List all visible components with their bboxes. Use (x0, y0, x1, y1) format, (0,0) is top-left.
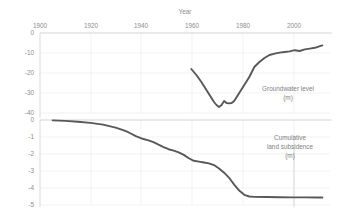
groundwater-label-line1: Groundwater level (262, 85, 314, 92)
top-panel-gridlines (40, 33, 330, 113)
bottom-panel-gridlines (40, 120, 330, 205)
x-tick-2000: 2000 (287, 22, 302, 29)
top-panel-x-tick-labels: 1900 1920 1940 1960 1980 2000 (33, 22, 302, 29)
y2-tick-minus4: -4 (28, 184, 34, 191)
x-tick-1960: 1960 (185, 22, 200, 29)
cumulative-land-subsidence-curve (53, 120, 323, 197)
top-panel-y-tick-labels: 0 -10 -20 -30 -40 (25, 29, 35, 116)
subsidence-series-label: Cumulative land subsidence (m) (267, 134, 314, 160)
y-tick-minus10: -10 (25, 49, 35, 56)
y2-tick-minus5: -5 (28, 201, 34, 208)
y2-tick-minus3: -3 (28, 167, 34, 174)
groundwater-label-line2: (m) (283, 94, 293, 102)
subsidence-label-line3: (m) (285, 152, 295, 160)
bottom-panel-y-tick-labels: 0 -1 -2 -3 -4 -5 (28, 116, 34, 208)
groundwater-level-curve (191, 45, 322, 107)
subsidence-label-line2: land subsidence (267, 143, 314, 150)
y2-tick-minus1: -1 (28, 133, 34, 140)
top-panel-axes (40, 33, 332, 118)
chart-figure: 1900 1920 1940 1960 1980 2000 Year 0 -10… (0, 0, 338, 215)
x-tick-1900: 1900 (33, 22, 48, 29)
groundwater-series-label: Groundwater level (m) (262, 85, 314, 102)
y2-tick-minus2: -2 (28, 150, 34, 157)
x-tick-1940: 1940 (134, 22, 149, 29)
x-axis-title: Year (179, 8, 193, 15)
x-tick-1980: 1980 (236, 22, 251, 29)
y2-tick-0: 0 (30, 116, 34, 123)
y-tick-0: 0 (30, 29, 34, 36)
y-tick-minus40: -40 (25, 109, 35, 116)
subsidence-label-line1: Cumulative (274, 134, 306, 141)
two-panel-chart: 1900 1920 1940 1960 1980 2000 Year 0 -10… (0, 0, 338, 215)
x-tick-1920: 1920 (84, 22, 99, 29)
y-tick-minus30: -30 (25, 89, 35, 96)
y-tick-minus20: -20 (25, 69, 35, 76)
